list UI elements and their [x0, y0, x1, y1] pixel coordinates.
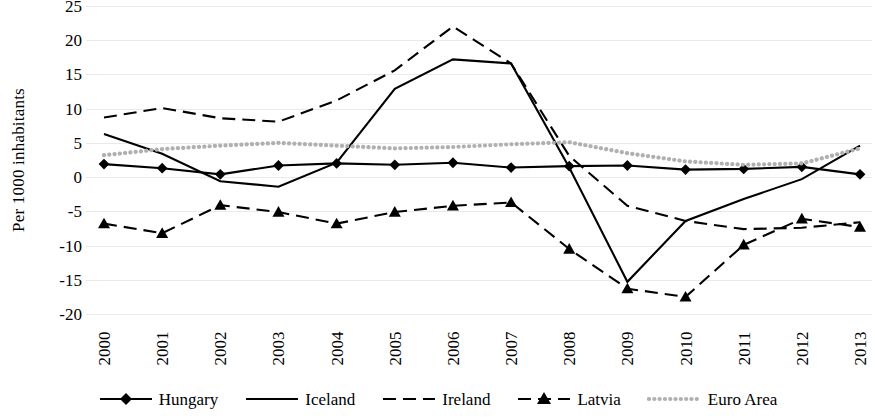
legend-swatch-dashed-marker — [516, 391, 572, 407]
x-tick-label-text: 2001 — [154, 329, 171, 369]
legend-swatch-solid — [244, 391, 300, 407]
data-point-marker — [621, 283, 633, 294]
y-axis-title: Per 1000 inhabitants — [2, 0, 36, 320]
x-tick-label: 2010 — [666, 340, 706, 357]
y-tick-label: 20 — [65, 32, 82, 49]
data-point-marker — [272, 206, 284, 217]
y-tick-label: 5 — [74, 134, 83, 151]
line-chart: Per 1000 inhabitants 2520151050-5-10-15-… — [0, 0, 875, 420]
x-tick-label: 2007 — [491, 340, 531, 357]
x-tick-label: 2002 — [200, 340, 240, 357]
x-tick-label-text: 2002 — [212, 329, 229, 369]
legend-label: Latvia — [577, 391, 620, 408]
data-point-marker — [505, 196, 517, 207]
chart-legend: HungaryIcelandIrelandLatviaEuro Area — [0, 384, 875, 414]
x-tick-label-text: 2004 — [328, 329, 345, 369]
data-point-marker — [448, 157, 459, 168]
x-tick-label: 2006 — [433, 340, 473, 357]
data-point-marker — [796, 213, 808, 224]
legend-item-latvia[interactable]: Latvia — [516, 391, 620, 408]
legend-label: Euro Area — [708, 391, 777, 408]
y-axis-tick-labels: 2520151050-5-10-15-20 — [36, 0, 82, 320]
series-line-euro-area — [104, 142, 860, 165]
x-tick-label: 2013 — [840, 340, 875, 357]
x-tick-label-text: 2011 — [735, 329, 752, 369]
x-tick-label: 2011 — [724, 340, 764, 357]
x-tick-label: 2012 — [782, 340, 822, 357]
legend-marker-diamond — [120, 393, 132, 405]
plot-area — [86, 6, 872, 314]
x-tick-label-text: 2006 — [444, 329, 461, 369]
y-tick-label: -5 — [68, 203, 82, 220]
legend-swatch-dotted — [647, 391, 703, 407]
data-point-marker — [214, 199, 226, 210]
x-tick-label: 2000 — [84, 340, 124, 357]
y-tick-label: -10 — [59, 237, 82, 254]
data-point-marker — [622, 160, 633, 171]
x-tick-label: 2005 — [375, 340, 415, 357]
x-tick-label-text: 2008 — [561, 329, 578, 369]
data-point-marker — [855, 169, 866, 180]
legend-swatch-solid-marker — [98, 391, 154, 407]
data-point-marker — [99, 159, 110, 170]
y-tick-label: 15 — [65, 66, 82, 83]
y-tick-label: 25 — [65, 0, 82, 15]
legend-label: Ireland — [442, 391, 490, 408]
data-point-marker — [738, 239, 750, 250]
legend-item-hungary[interactable]: Hungary — [98, 391, 218, 408]
data-point-marker — [389, 159, 400, 170]
legend-item-euro-area[interactable]: Euro Area — [647, 391, 777, 408]
y-tick-label: -15 — [59, 271, 82, 288]
data-point-marker — [156, 227, 168, 238]
x-axis-tick-labels: 2000200120022003200420052006200720082009… — [86, 318, 872, 380]
legend-item-iceland[interactable]: Iceland — [244, 391, 355, 408]
x-tick-label-text: 2003 — [270, 329, 287, 369]
x-tick-label-text: 2013 — [852, 329, 869, 369]
x-tick-label-text: 2010 — [677, 329, 694, 369]
x-tick-label-text: 2012 — [793, 329, 810, 369]
x-tick-label-text: 2009 — [619, 329, 636, 369]
data-point-marker — [273, 160, 284, 171]
x-tick-label: 2003 — [258, 340, 298, 357]
x-tick-label-text: 2007 — [503, 329, 520, 369]
y-tick-label: -20 — [59, 306, 82, 323]
data-point-marker — [98, 218, 110, 229]
y-axis-title-text: Per 1000 inhabitants — [9, 88, 29, 232]
data-point-marker — [680, 164, 691, 175]
gridline — [86, 314, 872, 315]
data-point-marker — [157, 163, 168, 174]
legend-label: Iceland — [305, 391, 355, 408]
y-tick-label: 0 — [74, 169, 83, 186]
y-tick-label: 10 — [65, 100, 82, 117]
x-tick-label: 2001 — [142, 340, 182, 357]
x-tick-label: 2004 — [317, 340, 357, 357]
legend-label: Hungary — [159, 391, 218, 408]
data-point-marker — [506, 162, 517, 173]
series-canvas — [86, 6, 872, 314]
legend-item-ireland[interactable]: Ireland — [381, 391, 490, 408]
x-tick-label-text: 2000 — [96, 329, 113, 369]
legend-swatch-dashed — [381, 391, 437, 407]
x-tick-label-text: 2005 — [386, 329, 403, 369]
data-point-marker — [215, 169, 226, 180]
series-line-latvia — [104, 202, 860, 296]
x-tick-label: 2008 — [549, 340, 589, 357]
x-tick-label: 2009 — [607, 340, 647, 357]
